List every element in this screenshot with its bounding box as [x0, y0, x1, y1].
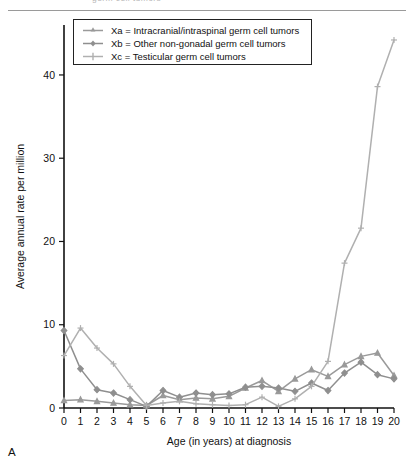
x-axis-title: Age (in years) at diagnosis: [167, 435, 291, 447]
x-tick-label: 15: [306, 415, 318, 427]
legend-item-xb: Xb = Other non-gonadal germ cell tumors: [82, 37, 286, 50]
y-axis-title: Average annual rate per million: [14, 144, 26, 289]
data-point: [78, 397, 83, 402]
x-tick-label: 3: [111, 415, 117, 427]
chart-figure: 0123456789101112131415161718192001020304…: [0, 0, 414, 470]
data-point: [111, 390, 117, 396]
legend-label-xc: Xc = Testicular germ cell tumors: [111, 51, 246, 62]
x-tick-label: 12: [256, 415, 268, 427]
data-point: [259, 383, 265, 389]
data-point: [210, 392, 216, 398]
x-tick-label: 9: [210, 415, 216, 427]
data-point: [61, 328, 67, 334]
x-tick-label: 14: [289, 415, 301, 427]
x-tick-label: 8: [193, 415, 199, 427]
x-tick-label: 1: [78, 415, 84, 427]
y-tick-label: 0: [49, 402, 55, 414]
x-tick-label: 0: [61, 415, 67, 427]
data-point: [292, 376, 297, 381]
x-tick-label: 18: [355, 415, 367, 427]
series-line-Xc: [64, 40, 394, 406]
legend-swatch-xb: [82, 39, 104, 48]
y-tick-label: 20: [43, 235, 55, 247]
x-tick-label: 2: [94, 415, 100, 427]
chart-series: [61, 37, 397, 409]
data-point: [111, 400, 116, 405]
x-tick-label: 13: [273, 415, 285, 427]
data-point: [342, 362, 347, 367]
data-point: [309, 367, 314, 372]
y-tick-label: 30: [43, 152, 55, 164]
legend-swatch-xa: [82, 26, 104, 35]
y-tick-label: 40: [43, 69, 55, 81]
data-point: [292, 388, 298, 394]
data-point: [61, 398, 66, 403]
data-point: [127, 397, 133, 403]
legend-swatch-xc: [82, 52, 104, 61]
legend-item-xa: Xa = Intracranial/intraspinal germ cell …: [82, 24, 299, 37]
x-tick-label: 17: [339, 415, 351, 427]
legend-label-xa: Xa = Intracranial/intraspinal germ cell …: [111, 25, 299, 36]
x-tick-label: 7: [177, 415, 183, 427]
data-point: [94, 399, 99, 404]
data-point: [193, 390, 199, 396]
chart-axis-labels: 0123456789101112131415161718192001020304…: [14, 69, 400, 447]
series-Xb: [61, 328, 397, 410]
x-tick-label: 6: [160, 415, 166, 427]
x-tick-label: 4: [127, 415, 133, 427]
panel-letter: A: [8, 446, 16, 458]
legend-label-xb: Xb = Other non-gonadal germ cell tumors: [111, 38, 286, 49]
x-tick-label: 16: [322, 415, 334, 427]
data-point: [375, 350, 380, 355]
chart-plot-area: 0123456789101112131415161718192001020304…: [0, 0, 414, 470]
chart-axes: [59, 25, 394, 413]
x-tick-label: 10: [223, 415, 235, 427]
data-point: [259, 378, 264, 383]
x-tick-label: 11: [240, 415, 251, 427]
x-tick-label: 5: [144, 415, 150, 427]
x-tick-label: 19: [372, 415, 384, 427]
series-Xa: [61, 350, 396, 407]
legend-item-xc: Xc = Testicular germ cell tumors: [82, 50, 246, 63]
series-Xc: [61, 37, 397, 409]
chart-legend: Xa = Intracranial/intraspinal germ cell …: [73, 19, 312, 65]
data-point: [358, 354, 363, 359]
y-tick-label: 10: [43, 318, 55, 330]
x-tick-label: 20: [388, 415, 400, 427]
